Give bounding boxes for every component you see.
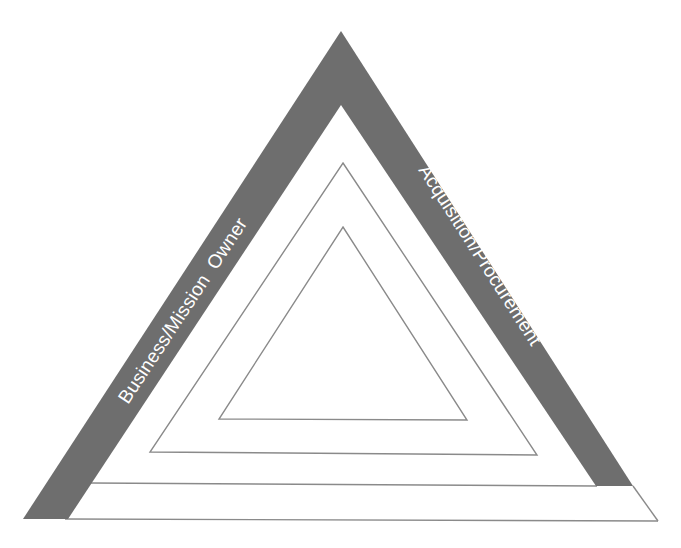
nested-triangle-diagram: Business/Mission Owner Acquisition/Procu… — [0, 0, 681, 548]
right-side-label: Acquisition/Procurement — [415, 161, 547, 350]
left-band — [23, 31, 341, 519]
bottom-band-shape — [68, 483, 658, 521]
inner-triangle — [219, 227, 467, 420]
left-side-label: Business/Mission Owner — [114, 213, 252, 407]
bottom-band — [65, 483, 658, 521]
